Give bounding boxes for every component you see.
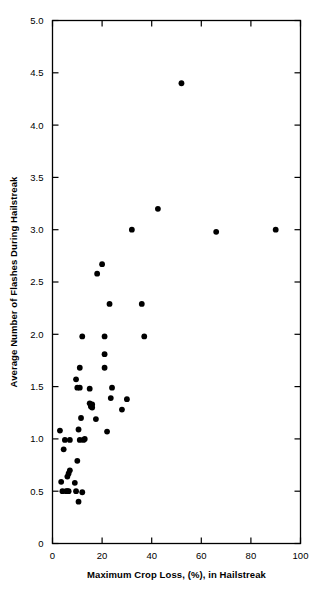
data-point xyxy=(139,301,145,307)
data-point xyxy=(76,499,82,505)
data-point xyxy=(64,474,70,480)
x-tick-label: 100 xyxy=(293,550,309,561)
data-point xyxy=(73,488,79,494)
y-tick-label: 4.5 xyxy=(30,67,43,78)
y-tick-label: 4.0 xyxy=(30,120,43,131)
y-tick-label: 0.5 xyxy=(30,486,43,497)
scatter-plot-figure: 00.51.01.52.02.53.03.54.04.55.0020406080… xyxy=(0,0,320,590)
y-tick-label: 3.5 xyxy=(30,172,43,183)
chart-background xyxy=(0,0,320,590)
y-tick-label: 2.0 xyxy=(30,329,43,340)
data-point xyxy=(119,407,125,413)
x-tick-label: 40 xyxy=(146,550,157,561)
data-point xyxy=(179,80,185,86)
data-point xyxy=(273,227,279,233)
data-point xyxy=(74,458,80,464)
chart-canvas: 00.51.01.52.02.53.03.54.04.55.0020406080… xyxy=(0,0,320,590)
data-point xyxy=(66,488,72,494)
data-point xyxy=(94,271,100,277)
data-point xyxy=(58,479,64,485)
x-tick-label: 20 xyxy=(97,550,108,561)
data-point xyxy=(73,376,79,382)
x-tick-label: 80 xyxy=(246,550,257,561)
data-point xyxy=(77,385,83,391)
data-point xyxy=(129,227,135,233)
data-point xyxy=(72,480,78,486)
data-point xyxy=(82,436,88,442)
y-tick-label: 3.0 xyxy=(30,224,43,235)
data-point xyxy=(77,365,83,371)
x-axis-title: Maximum Crop Loss, (%), in Hailstreak xyxy=(87,569,267,580)
data-point xyxy=(67,437,73,443)
data-point xyxy=(155,206,161,212)
data-point xyxy=(141,333,147,339)
data-point xyxy=(78,415,84,421)
data-point xyxy=(93,416,99,422)
data-point xyxy=(102,365,108,371)
y-axis-title: Average Number of Flashes During Hailstr… xyxy=(8,176,19,388)
data-point xyxy=(61,446,67,452)
data-point xyxy=(102,351,108,357)
data-point xyxy=(76,427,82,433)
y-tick-label: 1.5 xyxy=(30,381,43,392)
y-tick-label: 5.0 xyxy=(30,15,43,26)
data-point xyxy=(102,333,108,339)
data-point xyxy=(213,229,219,235)
data-point xyxy=(124,396,130,402)
data-point xyxy=(57,428,63,434)
data-point xyxy=(107,301,113,307)
x-tick-label: 0 xyxy=(50,550,55,561)
data-point xyxy=(109,385,115,391)
data-point xyxy=(89,401,95,407)
data-point xyxy=(62,437,68,443)
y-tick-label: 1.0 xyxy=(30,433,43,444)
data-point xyxy=(79,489,85,495)
data-point xyxy=(99,261,105,267)
data-point xyxy=(79,333,85,339)
y-tick-label: 0 xyxy=(38,538,43,549)
x-tick-label: 60 xyxy=(196,550,207,561)
data-point xyxy=(87,386,93,392)
data-point xyxy=(104,429,110,435)
data-point xyxy=(108,395,114,401)
y-tick-label: 2.5 xyxy=(30,276,43,287)
